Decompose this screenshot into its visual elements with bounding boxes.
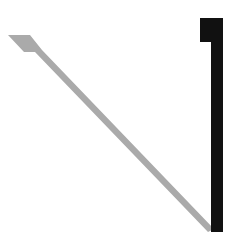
vertical-bar-tab-shape: [200, 18, 212, 42]
vertical-bar-stem-shape: [211, 18, 223, 232]
glyph-figure: [0, 0, 241, 249]
